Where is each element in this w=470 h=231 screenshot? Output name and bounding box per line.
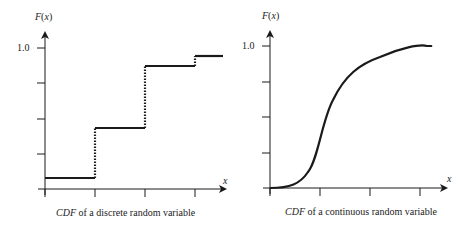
step-segments xyxy=(45,56,223,178)
figure: F(x) 1.0 x CDF of a discrete random vari… xyxy=(0,0,470,231)
discrete-cdf-chart: F(x) 1.0 x CDF of a discrete random vari… xyxy=(17,11,228,218)
x-ticks xyxy=(270,188,420,196)
y-ticks xyxy=(37,48,45,154)
cdf-curve xyxy=(270,45,431,188)
continuous-cdf-chart: F(x) 1.0 x CDF of a continuous random va… xyxy=(242,10,452,217)
caption-left: CDF of a discrete random variable xyxy=(56,207,196,218)
x-axis-label: x xyxy=(222,175,228,186)
x-ticks xyxy=(45,189,195,197)
y-tick-label-1: 1.0 xyxy=(17,42,30,53)
y-tick-label-1: 1.0 xyxy=(242,40,255,51)
step-jumps xyxy=(95,56,195,178)
caption-right: CDF of a continuous random variable xyxy=(285,206,437,217)
x-axis-label: x xyxy=(446,173,452,184)
y-axis-label: F(x) xyxy=(261,10,279,22)
y-axis-label: F(x) xyxy=(34,11,52,23)
y-ticks xyxy=(262,46,270,153)
